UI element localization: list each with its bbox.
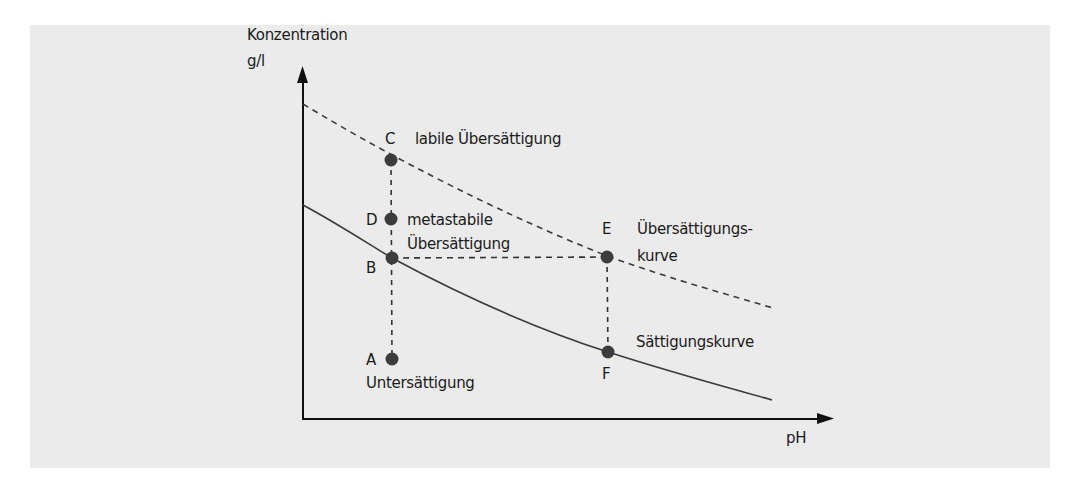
guide-line-vertical-e-f xyxy=(607,257,608,352)
point-c-description: labile Übersättigung xyxy=(415,130,561,148)
point-f-letter: F xyxy=(602,365,610,383)
point-a-marker xyxy=(386,353,399,366)
x-axis-arrow-icon xyxy=(817,413,834,424)
point-e-marker xyxy=(601,251,614,264)
point-d-letter: D xyxy=(366,211,377,229)
y-axis-label: Konzentration xyxy=(247,26,347,44)
point-a-letter: A xyxy=(366,351,376,369)
point-e-letter: E xyxy=(602,220,611,238)
point-c-letter: C xyxy=(385,130,395,148)
point-d-description-line2: Übersättigung xyxy=(407,235,510,253)
y-axis-unit: g/l xyxy=(247,52,265,70)
point-b-letter: B xyxy=(366,259,376,277)
guide-line-horizontal-b-e xyxy=(392,257,607,258)
point-d-description-line1: metastabile xyxy=(407,211,493,229)
x-axis xyxy=(302,413,834,424)
saturation-curve-label: Sättigungskurve xyxy=(636,333,754,351)
solubility-diagram xyxy=(0,0,1079,485)
supersaturation-curve-label-line2: kurve xyxy=(637,247,678,265)
supersaturation-curve-label-line1: Übersättigungs- xyxy=(637,220,753,238)
point-b-marker xyxy=(386,252,399,265)
point-a-description: Untersättigung xyxy=(366,374,475,392)
x-axis-label: pH xyxy=(786,429,806,447)
point-c-marker xyxy=(385,154,398,167)
point-f-marker xyxy=(602,346,615,359)
point-d-marker xyxy=(385,213,398,226)
y-axis xyxy=(297,66,308,420)
y-axis-arrow-icon xyxy=(297,66,308,83)
